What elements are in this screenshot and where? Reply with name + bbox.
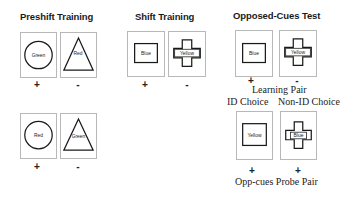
probe-pair-caption: Opp-cues Probe Pair xyxy=(235,176,318,187)
shape-label: Red xyxy=(34,133,43,138)
shift-cross-card: Yellow xyxy=(168,31,206,77)
shape-label: Green xyxy=(32,53,46,58)
triangle-icon: Red xyxy=(61,33,96,77)
preshift-row1-plus-sign: + xyxy=(31,80,43,90)
preshift-row2-minus-sign: - xyxy=(72,162,84,172)
cross-icon: Yellow xyxy=(280,31,316,76)
shift-training-title: Shift Training xyxy=(135,11,194,22)
opposed-cues-test-title: Opposed-Cues Test xyxy=(233,10,320,21)
shift-minus-sign: - xyxy=(181,80,193,90)
preshift-row2-triangle-card: Green xyxy=(60,113,97,159)
circle-icon: Green xyxy=(21,33,56,77)
preshift-row2-plus-sign: + xyxy=(31,162,43,172)
opposed-probe-plus-sign-1: + xyxy=(246,166,258,176)
shape-label: Green xyxy=(72,134,86,139)
shift-square-card: Blue xyxy=(127,31,165,77)
shape-label: Blue xyxy=(249,51,259,56)
non-id-choice-header: Non-ID Choice xyxy=(278,96,340,107)
square-icon: Yellow xyxy=(237,112,272,159)
square-icon: Blue xyxy=(128,32,164,76)
shape-label: Yellow xyxy=(291,50,305,55)
circle-icon: Red xyxy=(21,114,56,158)
cross-icon: Blue xyxy=(281,112,316,159)
cross-icon: Yellow xyxy=(169,32,205,76)
opposed-probe-plus-sign-2: + xyxy=(292,166,304,176)
opposed-learning-cross-card: Yellow xyxy=(279,30,317,77)
square-icon: Blue xyxy=(236,31,272,76)
opposed-probe-square-card: Yellow xyxy=(236,111,273,160)
shift-plus-sign: + xyxy=(139,80,151,90)
shape-label: Yellow xyxy=(247,133,261,138)
preshift-row1-minus-sign: - xyxy=(72,80,84,90)
preshift-row2-circle-card: Red xyxy=(20,113,57,159)
preshift-training-title: Preshift Training xyxy=(20,11,93,22)
preshift-row1-triangle-card: Red xyxy=(60,32,97,78)
triangle-icon: Green xyxy=(61,114,96,158)
shape-label: Red xyxy=(74,51,83,56)
shape-label: Blue xyxy=(294,133,304,138)
shape-label: Blue xyxy=(141,51,151,56)
preshift-row1-circle-card: Green xyxy=(20,32,57,78)
id-choice-header: ID Choice xyxy=(227,96,268,107)
learning-pair-caption: Learning Pair xyxy=(252,84,307,95)
shape-label: Yellow xyxy=(180,51,194,56)
opposed-learning-square-card: Blue xyxy=(235,30,273,77)
opposed-probe-cross-card: Blue xyxy=(280,111,317,160)
